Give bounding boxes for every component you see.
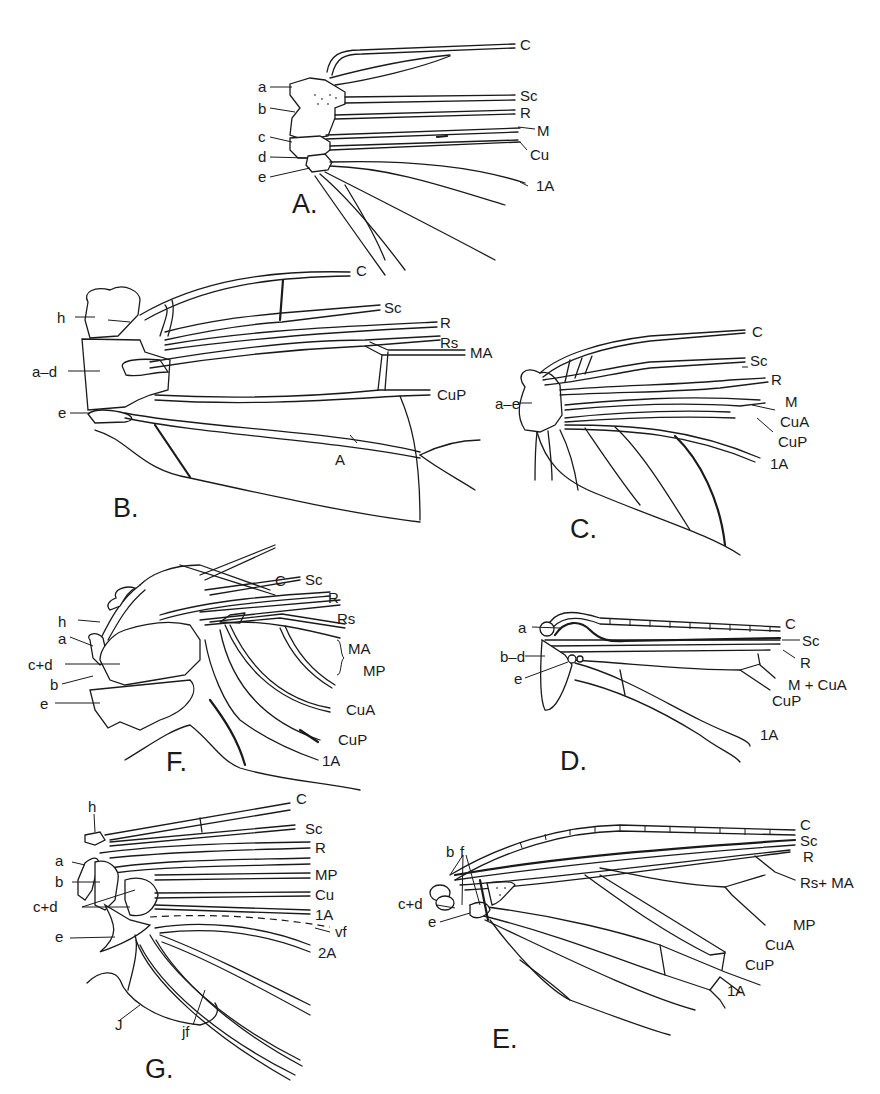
label-C: C [800, 816, 811, 833]
label-b: b [258, 100, 266, 117]
label-b: b [55, 873, 63, 890]
label-e: e [514, 670, 522, 687]
label-Rs: Rs [440, 334, 458, 351]
label-a-d: a–d [32, 363, 57, 380]
label-CuP: CuP [745, 956, 774, 973]
wing-base-figure: a b c d e C Sc R M Cu 1A A. [0, 0, 880, 1094]
label-c: c [258, 128, 266, 145]
panel-c: a–e C Sc R M CuA CuP 1A C. [495, 323, 809, 555]
label-jf: jf [181, 1023, 190, 1040]
label-R: R [771, 371, 782, 388]
label-CuP: CuP [778, 433, 807, 450]
label-Rs: Rs [337, 610, 355, 627]
label-R: R [800, 654, 811, 671]
label-1A: 1A [727, 982, 745, 999]
label-Sc: Sc [750, 352, 768, 369]
panel-letter-f: F. [166, 747, 187, 777]
label-M: M [785, 393, 798, 410]
panel-letter-g: G. [145, 1054, 174, 1084]
label-a-e: a–e [495, 395, 520, 412]
label-c-d: c+d [33, 898, 58, 915]
label-1A: 1A [322, 752, 340, 769]
label-MP: MP [793, 916, 816, 933]
label-CuP: CuP [338, 731, 367, 748]
label-e: e [258, 168, 266, 185]
label-MP: MP [363, 662, 386, 679]
label-b: b [446, 843, 454, 860]
panel-b: h a–d e C Sc R Rs MA CuP A B. [32, 262, 493, 523]
label-a: a [55, 852, 64, 869]
label-c-d: c+d [28, 656, 53, 673]
label-2A: 2A [318, 944, 336, 961]
label-CuA: CuA [346, 701, 375, 718]
label-R: R [520, 104, 531, 121]
label-R: R [328, 589, 339, 606]
label-e: e [58, 404, 66, 421]
label-Sc: Sc [520, 87, 538, 104]
label-R: R [440, 314, 451, 331]
label-Cu: Cu [530, 146, 549, 163]
panel-e: b f c+d e C Sc R Rs+ MA MP CuA CuP 1A E. [398, 816, 854, 1054]
panel-letter-e: E. [492, 1024, 518, 1054]
label-Cu: Cu [315, 886, 334, 903]
label-MP: MP [315, 866, 338, 883]
label-e: e [428, 913, 436, 930]
label-b: b [50, 676, 58, 693]
panel-letter-d: D. [560, 746, 587, 776]
label-C: C [785, 615, 796, 632]
label-Sc: Sc [305, 571, 323, 588]
label-C: C [275, 572, 286, 589]
panel-d: a b–d e C Sc R M + CuA CuP 1A D. [500, 613, 847, 777]
label-e: e [55, 928, 63, 945]
label-C: C [296, 790, 307, 807]
label-C: C [356, 262, 367, 279]
label-1A: 1A [770, 455, 788, 472]
label-a: a [518, 619, 527, 636]
label-e: e [40, 695, 48, 712]
panel-a: a b c d e C Sc R M Cu 1A A. [258, 36, 554, 275]
label-R: R [803, 848, 814, 865]
label-Sc: Sc [305, 820, 323, 837]
label-d: d [258, 148, 266, 165]
label-c-d: c+d [398, 895, 423, 912]
label-CuA: CuA [765, 936, 794, 953]
label-Rs-MA: Rs+ MA [800, 874, 854, 891]
label-CuP: CuP [437, 386, 466, 403]
label-C: C [752, 323, 763, 340]
label-h: h [57, 309, 65, 326]
label-a: a [258, 78, 267, 95]
label-A: A [335, 451, 345, 468]
label-MA: MA [348, 640, 371, 657]
label-Sc: Sc [802, 632, 820, 649]
panel-f: h a c+d b e C Sc R Rs MA MP CuA CuP 1A F… [28, 545, 386, 790]
label-1A: 1A [760, 726, 778, 743]
label-b-d: b–d [500, 648, 525, 665]
label-vf: vf [335, 923, 348, 940]
label-R: R [315, 839, 326, 856]
panel-g: h a b c+d e J jf C Sc R MP Cu 1A vf 2A G… [33, 790, 348, 1084]
label-Sc: Sc [800, 832, 818, 849]
label-Sc: Sc [384, 299, 402, 316]
label-h: h [88, 798, 96, 815]
panel-letter-c: C. [570, 514, 597, 544]
label-f: f [460, 843, 465, 860]
label-J: J [115, 1016, 123, 1033]
label-h: h [58, 613, 66, 630]
label-M: M [537, 122, 550, 139]
label-a: a [58, 630, 67, 647]
label-CuP: CuP [772, 692, 801, 709]
label-1A: 1A [536, 177, 554, 194]
panel-letter-b: B. [113, 493, 139, 523]
label-1A: 1A [315, 906, 333, 923]
label-C: C [520, 36, 531, 53]
label-M-CuA: M + CuA [788, 676, 847, 693]
label-MA: MA [470, 344, 493, 361]
label-CuA: CuA [780, 413, 809, 430]
panel-letter-a: A. [292, 189, 318, 219]
